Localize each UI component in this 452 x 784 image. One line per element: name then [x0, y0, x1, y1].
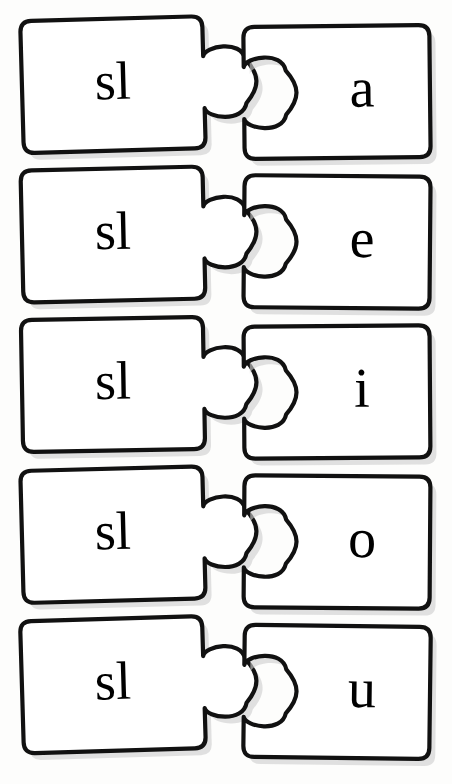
- piece-label: sl: [94, 501, 132, 562]
- piece-label: e: [349, 207, 374, 269]
- puzzle-piece-right-row-3[interactable]: i: [239, 321, 440, 466]
- piece-outline: [21, 316, 258, 452]
- puzzle-piece-left-row-3[interactable]: sl: [17, 312, 259, 460]
- piece-outline: [20, 15, 258, 153]
- piece-label: sl: [94, 351, 131, 412]
- puzzle-row-2: sle: [0, 156, 452, 306]
- puzzle-piece-left-row-2[interactable]: sl: [16, 161, 259, 310]
- puzzle-piece-left-row-4[interactable]: sl: [16, 461, 260, 611]
- piece-label: sl: [94, 651, 132, 712]
- puzzle-row-3: sli: [0, 306, 452, 456]
- worksheet-canvas: slasleslisloslu: [0, 0, 452, 784]
- piece-outline: [243, 625, 431, 759]
- piece-label: a: [349, 56, 375, 118]
- piece-outline: [20, 615, 258, 754]
- puzzle-piece-left-row-1[interactable]: sl: [16, 11, 260, 162]
- piece-outline: [20, 165, 257, 302]
- puzzle-piece-right-row-5[interactable]: u: [239, 621, 441, 767]
- piece-label: u: [348, 657, 377, 719]
- puzzle-row-4: slo: [0, 456, 452, 606]
- puzzle-piece-right-row-2[interactable]: e: [239, 171, 440, 317]
- puzzle-piece-left-row-5[interactable]: sl: [16, 610, 260, 761]
- piece-outline: [244, 475, 431, 608]
- puzzle-row-5: slu: [0, 606, 452, 756]
- piece-label: sl: [94, 51, 132, 112]
- piece-outline: [243, 175, 430, 309]
- puzzle-piece-right-row-1[interactable]: a: [239, 21, 440, 167]
- piece-outline: [20, 465, 258, 603]
- piece-label: o: [348, 507, 376, 569]
- piece-label: sl: [94, 201, 131, 262]
- puzzle-row-1: sla: [0, 6, 452, 156]
- piece-outline: [244, 325, 431, 458]
- piece-label: i: [354, 357, 370, 419]
- piece-outline: [243, 25, 430, 159]
- puzzle-piece-right-row-4[interactable]: o: [239, 471, 440, 616]
